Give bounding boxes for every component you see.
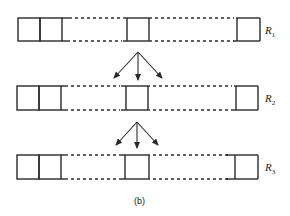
figure-caption: (b) xyxy=(134,196,145,206)
arrow-right-icon xyxy=(138,52,162,78)
arrow-left-icon xyxy=(116,122,137,145)
row-label-r2: R2 xyxy=(264,92,276,107)
arrows-2-to-3 xyxy=(116,122,158,148)
arrow-right-icon xyxy=(137,122,158,145)
row-label-r1: R1 xyxy=(264,24,276,39)
row-label-r3: R3 xyxy=(264,161,276,176)
register-row-3: R3 xyxy=(17,155,276,179)
register-propagation-diagram: R1 R2 xyxy=(0,0,290,216)
cell-1 xyxy=(17,86,39,110)
register-row-2: R2 xyxy=(17,86,276,110)
cell-2 xyxy=(40,18,62,41)
arrow-left-icon xyxy=(114,52,138,78)
arrows-1-to-2 xyxy=(114,52,162,80)
cell-1 xyxy=(17,155,39,179)
cell-2 xyxy=(39,155,61,179)
cell-1 xyxy=(18,18,40,41)
register-row-1: R1 xyxy=(18,18,276,41)
cell-2 xyxy=(39,86,61,110)
